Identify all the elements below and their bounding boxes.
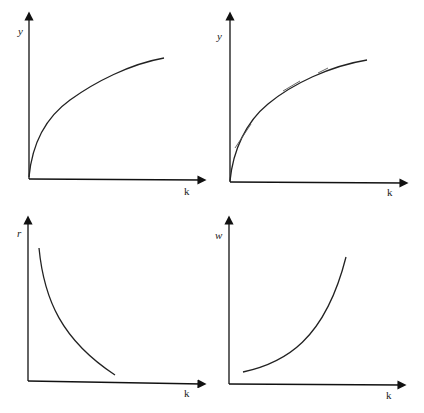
- panel-top-left: [29, 16, 202, 180]
- panel-bottom-left: [28, 220, 202, 384]
- rental-rate-curve: [39, 248, 115, 375]
- panel-bottom-right: [229, 220, 402, 385]
- production-curve: [29, 58, 164, 177]
- y-axis-label-top-right: y: [217, 31, 222, 42]
- y-axis-label-bottom-right: w: [215, 230, 222, 241]
- production-curve: [230, 60, 367, 181]
- x-axis: [229, 384, 402, 385]
- tangent-line-1: [235, 124, 251, 148]
- x-axis-label-bottom-left: k: [184, 388, 190, 399]
- x-axis-label-bottom-right: k: [386, 390, 392, 401]
- x-axis: [28, 381, 202, 384]
- x-axis: [230, 182, 404, 183]
- x-axis-label-top-right: k: [387, 187, 393, 198]
- diagram-canvas: [0, 0, 424, 413]
- tangent-line-2: [283, 81, 300, 91]
- panel-top-right: [230, 16, 404, 183]
- x-axis: [29, 179, 202, 180]
- y-axis-label-bottom-left: r: [17, 228, 21, 239]
- x-axis-label-top-left: k: [184, 186, 190, 197]
- wage-curve: [243, 257, 346, 372]
- y-axis-label-top-left: y: [18, 26, 23, 37]
- figure: y k y k r k w k: [0, 0, 424, 413]
